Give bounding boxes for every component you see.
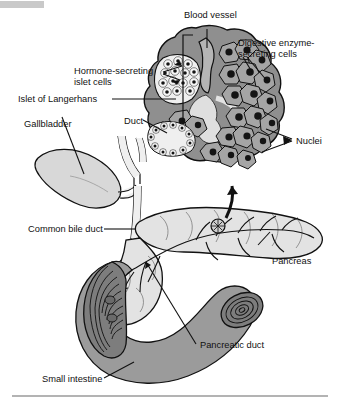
label-digestive-enzyme-cells-line2: secreting cells — [238, 49, 297, 59]
pancreas-anatomy-figure: Blood vessel Digestive enzyme- secreting… — [0, 0, 340, 404]
minor-duodenal-papilla — [107, 314, 117, 322]
label-pancreas: Pancreas — [272, 256, 312, 266]
major-duodenal-papilla — [105, 296, 115, 304]
label-common-bile-duct: Common bile duct — [28, 224, 103, 234]
label-small-intestine: Small intestine — [42, 374, 102, 384]
label-digestive-enzyme-cells: Digestive enzyme- — [238, 38, 314, 48]
label-blood-vessel: Blood vessel — [184, 10, 237, 20]
magnification-site-marker — [211, 219, 225, 233]
label-islet-of-langerhans: Islet of Langerhans — [18, 94, 97, 104]
top-left-gray-bar — [0, 1, 44, 8]
label-hormone-islet-cells-line2: islet cells — [74, 77, 112, 87]
label-pancreatic-duct: Pancreatic duct — [200, 340, 264, 350]
label-gallbladder: Gallbladder — [24, 119, 72, 129]
label-nuclei: Nuclei — [296, 136, 322, 146]
label-duct: Duct — [124, 116, 144, 126]
label-hormone-islet-cells: Hormone-secreting — [74, 66, 153, 76]
